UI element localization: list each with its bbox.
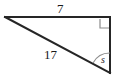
hypotenuse-length-label: 17: [44, 48, 57, 61]
triangle-outline: [5, 17, 110, 73]
angle-label: s: [101, 55, 105, 65]
triangle-hypotenuse: [5, 17, 110, 73]
geometry-figure: 7 17 s: [0, 0, 118, 75]
right-angle-marker-icon: [100, 19, 109, 28]
top-leg-length-label: 7: [57, 2, 64, 15]
